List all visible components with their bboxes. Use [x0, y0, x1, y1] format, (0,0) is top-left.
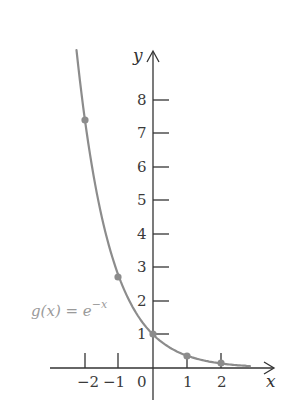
y-tick-label: 6	[137, 158, 147, 176]
chart-svg: −2 −1 0 1 2 1 2 3 4 5 6 7 8 y x g(x) = e…	[0, 0, 304, 410]
x-axis-label: x	[266, 371, 276, 391]
x-tick-label: −1	[103, 373, 125, 391]
function-label: g(x) = e−x	[31, 298, 108, 320]
x-tick-label: 1	[183, 373, 193, 391]
point-x-minus-2	[81, 116, 88, 123]
y-tick-label: 3	[137, 258, 147, 276]
point-x-0	[149, 330, 156, 337]
y-tick-label: 4	[137, 225, 147, 243]
point-x-2	[217, 359, 224, 366]
y-tick-label: 2	[137, 292, 147, 310]
exp-decay-curve	[77, 50, 250, 366]
y-axis-label: y	[132, 45, 143, 65]
point-x-minus-1	[114, 273, 121, 280]
y-tick-label: 5	[137, 191, 147, 209]
y-tick-label: 7	[137, 124, 147, 142]
x-tick-label: 0	[137, 373, 147, 391]
function-label-exponent: −x	[92, 298, 108, 311]
x-tick-label: 2	[217, 373, 227, 391]
chart-figure: −2 −1 0 1 2 1 2 3 4 5 6 7 8 y x g(x) = e…	[0, 0, 304, 410]
x-tick-label: −2	[77, 373, 99, 391]
function-label-base: g(x) = e	[31, 302, 92, 320]
y-tick-label: 1	[137, 325, 147, 343]
y-tick-label: 8	[137, 91, 147, 109]
point-x-1	[183, 352, 190, 359]
